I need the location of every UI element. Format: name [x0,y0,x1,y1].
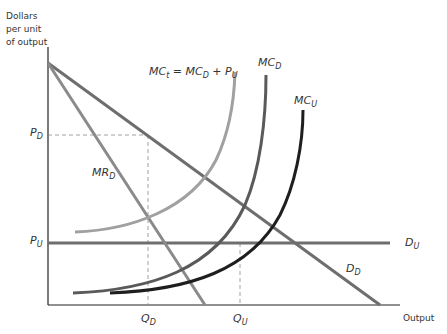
qd-tick-label: QD [141,312,156,327]
dd-curve [48,63,380,305]
mcu-label: MCU [294,94,317,109]
dd-label: DD [346,262,361,277]
y-axis-label-line: of output [6,36,47,49]
pd-tick-label: PD [30,126,43,141]
mct-label: MCt = MCD + PU [149,65,238,80]
chart-plot [0,0,447,334]
qu-tick-label: QU [233,312,248,327]
mrd-label: MRD [92,166,115,181]
du-label: DU [405,236,419,251]
chart-container: Dollars per unit of output Output PD PU … [0,0,447,334]
y-axis-label-line: Dollars [6,10,47,23]
mct-curve [75,72,235,232]
mcd-label: MCD [258,56,281,71]
y-axis-label: Dollars per unit of output [6,10,47,49]
pu-tick-label: PU [30,234,43,249]
y-axis-label-line: per unit [6,23,47,36]
x-axis-label: Output [403,313,434,323]
